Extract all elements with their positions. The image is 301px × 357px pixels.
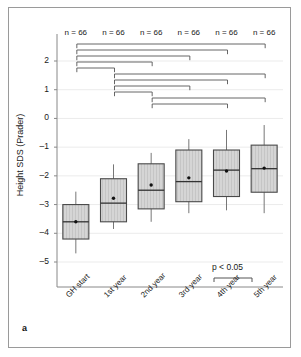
significance-bracket (152, 104, 227, 108)
y-tick-label: –1 (25, 141, 49, 151)
sample-size-label: n = 66 (240, 28, 288, 37)
significance-bracket (77, 68, 115, 72)
y-tick-label: –5 (25, 256, 49, 266)
significance-bracket (152, 98, 265, 102)
significance-bracket (77, 62, 152, 66)
significance-bracket (115, 80, 228, 84)
box-plot-group (214, 130, 240, 210)
significance-bracket (77, 56, 190, 60)
box-plot-group (176, 139, 202, 213)
box-plot-group (251, 125, 277, 213)
y-tick-label: 1 (25, 84, 49, 94)
y-tick-label: –2 (25, 170, 49, 180)
box-plot-group (138, 153, 164, 222)
y-tick-label: 2 (25, 55, 49, 65)
panel-label: a (22, 323, 27, 333)
y-tick-label: –4 (25, 227, 49, 237)
y-tick-label: –3 (25, 199, 49, 209)
figure-panel: Height SDS (Prader) a 210–1–2–3–4–5n = 6… (0, 0, 301, 357)
y-tick-label: 0 (25, 112, 49, 122)
significance-bracket (77, 44, 265, 48)
p-value-legend: p < 0.05 (212, 262, 243, 272)
significance-bracket (115, 74, 266, 78)
box-plot-group (63, 192, 89, 254)
significance-bracket (77, 50, 228, 54)
box-plot-group (101, 164, 127, 229)
significance-bracket (115, 92, 153, 96)
